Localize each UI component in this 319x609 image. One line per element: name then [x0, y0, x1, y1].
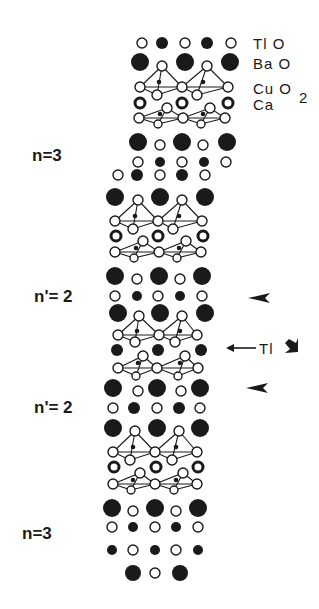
oxygen-atom — [110, 216, 120, 226]
oxygen-atom — [196, 247, 206, 257]
ba-atom — [193, 267, 211, 285]
cu-atom — [178, 329, 183, 334]
oxygen-atom — [177, 195, 187, 205]
cu-atom — [178, 361, 183, 366]
ba-atom — [151, 304, 169, 322]
ba-atom — [131, 53, 149, 71]
oxygen-atom — [197, 291, 207, 301]
pyramid-base — [182, 87, 228, 95]
oxygen-atom — [178, 113, 188, 123]
tl-atom — [176, 169, 188, 181]
ba-atom — [106, 267, 124, 285]
ca-atom — [177, 98, 187, 108]
oxygen-atom — [157, 61, 167, 71]
ba-atom — [221, 53, 239, 71]
oxygen-atom — [128, 545, 138, 555]
oxygen-atom — [132, 274, 142, 284]
ba-atom — [129, 133, 147, 151]
legend-cuo2-subscript: 2 — [299, 89, 308, 106]
ba-atom — [148, 419, 166, 437]
ba-atom — [103, 499, 121, 517]
ca-atom — [153, 231, 163, 241]
ca-atom — [223, 98, 233, 108]
oxygen-atom — [221, 157, 231, 167]
oxygen-atom — [177, 157, 187, 167]
oxygen-atom — [138, 236, 148, 246]
cu-atom — [174, 445, 179, 450]
label-n-prime-2-lower: n'= 2 — [34, 398, 73, 418]
oxygen-atom — [133, 157, 143, 167]
oxygen-atom — [192, 90, 202, 100]
oxygen-atom — [150, 447, 160, 457]
oxygen-atom — [171, 506, 181, 516]
oxygen-atom — [134, 311, 144, 321]
cu-atom — [133, 214, 138, 219]
oxygen-atom — [173, 254, 181, 262]
oxygen-atom — [177, 82, 187, 92]
ba-atom — [189, 499, 207, 517]
oxygen-atom — [110, 291, 120, 301]
oxygen-atom — [195, 403, 205, 413]
oxygen-atom — [133, 195, 143, 205]
tl-atom — [199, 157, 209, 167]
oxygen-atom — [130, 337, 140, 347]
oxygen-atom — [152, 403, 162, 413]
ca-atom — [198, 231, 208, 241]
tl-atom — [128, 522, 138, 532]
oxygen-atom — [174, 426, 184, 436]
label-n3-top: n=3 — [32, 146, 62, 166]
oxygen-atom — [107, 522, 117, 532]
tl-atom — [155, 157, 165, 167]
ba-atom — [191, 419, 209, 437]
tl-atom — [107, 545, 117, 555]
ba-atom — [173, 133, 191, 151]
tl-atom — [132, 291, 142, 301]
legend-bao: Ba O — [253, 55, 291, 72]
oxygen-atom — [193, 363, 203, 373]
cu-atom — [177, 214, 182, 219]
oxygen-atom — [170, 486, 178, 494]
ba-atom — [104, 419, 122, 437]
oxygen-atom — [177, 311, 187, 321]
pyramid-base — [158, 221, 202, 229]
oxygen-atom — [193, 522, 203, 532]
ba-atom — [218, 133, 236, 151]
oxygen-atom — [110, 247, 120, 257]
ca-atom — [151, 462, 161, 472]
oxygen-atom — [171, 545, 181, 555]
oxygen-atom — [128, 506, 138, 516]
oxygen-atom — [152, 90, 162, 100]
oxygen-atom — [175, 274, 185, 284]
oxygen-atom — [135, 468, 145, 478]
oxygen-atom — [226, 38, 236, 48]
cu-atom — [157, 80, 162, 85]
ba-atom — [195, 344, 207, 356]
oxygen-atom — [127, 486, 135, 494]
oxygen-atom — [152, 363, 162, 373]
oxygen-atom — [108, 479, 118, 489]
legend-cuo2: Cu O 2 — [253, 80, 292, 97]
oxygen-atom — [137, 38, 147, 48]
cu-atom — [158, 112, 163, 117]
tl-atom — [193, 545, 203, 555]
cu-atom — [136, 361, 141, 366]
tl-atom — [171, 522, 181, 532]
legend-ca: Ca — [253, 96, 274, 113]
oxygen-atom — [223, 82, 233, 92]
oxygen-atom — [113, 170, 123, 180]
arrowhead-left-icon — [248, 293, 270, 303]
cu-atom — [135, 329, 140, 334]
oxygen-atom — [200, 170, 210, 180]
oxygen-atom — [154, 120, 162, 128]
ba-atom — [196, 188, 214, 206]
oxygen-atom — [132, 372, 140, 380]
tl-atom — [173, 402, 185, 414]
oxygen-atom — [167, 455, 177, 465]
oxygen-atom — [205, 103, 215, 113]
tl-atom — [156, 37, 168, 49]
oxygen-atom — [133, 386, 143, 396]
oxygen-atom — [162, 103, 172, 113]
oxygen-atom — [168, 224, 178, 234]
oxygen-atom — [150, 479, 160, 489]
oxygen-atom — [192, 479, 202, 489]
